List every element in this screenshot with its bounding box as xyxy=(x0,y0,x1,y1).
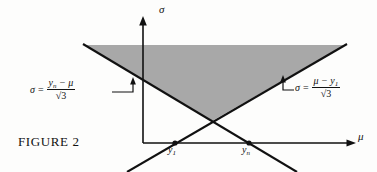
figure-2-diagram: σ μ y1 yn σ = yn − μ √3 σ = μ − y1 √3 FI… xyxy=(0,0,377,172)
equation-left-numerator-rest: − μ xyxy=(59,77,73,88)
equation-left-equals: = xyxy=(38,84,44,95)
equation-right-denominator: √3 xyxy=(321,88,332,99)
equation-right-lhs: σ xyxy=(295,82,300,93)
tick-label-yn-subscript: n xyxy=(246,149,250,157)
figure-caption: FIGURE 2 xyxy=(18,134,80,150)
equation-right-equals: = xyxy=(303,82,309,93)
equation-left-numerator: yn − μ xyxy=(47,78,76,90)
equation-right-numerator-base: μ − y xyxy=(314,75,335,86)
left-label-leader xyxy=(112,84,133,92)
sigma-axis-arrowhead xyxy=(139,16,147,26)
tick-label-y1-subscript: 1 xyxy=(172,149,176,157)
mu-axis-label: μ xyxy=(358,130,364,142)
equation-left-fraction: yn − μ √3 xyxy=(47,78,76,101)
tick-label-y1: y1 xyxy=(168,144,176,155)
equation-left-lhs: σ xyxy=(30,84,35,95)
equation-right-fraction: μ − y1 √3 xyxy=(312,76,341,99)
equation-label-left: σ = yn − μ √3 xyxy=(30,78,75,101)
equation-label-right: σ = μ − y1 √3 xyxy=(295,76,340,99)
right-label-leader xyxy=(283,82,294,90)
left-leader-arrowhead xyxy=(130,77,136,85)
equation-left-numerator-subscript: n xyxy=(53,82,57,90)
tick-label-yn: yn xyxy=(242,144,250,155)
equation-right-numerator-subscript: 1 xyxy=(335,80,339,88)
equation-right-numerator: μ − y1 xyxy=(312,76,341,88)
equation-left-denominator: √3 xyxy=(56,90,67,101)
sigma-axis-label: σ xyxy=(159,3,164,15)
mu-axis-arrowhead xyxy=(347,139,357,146)
